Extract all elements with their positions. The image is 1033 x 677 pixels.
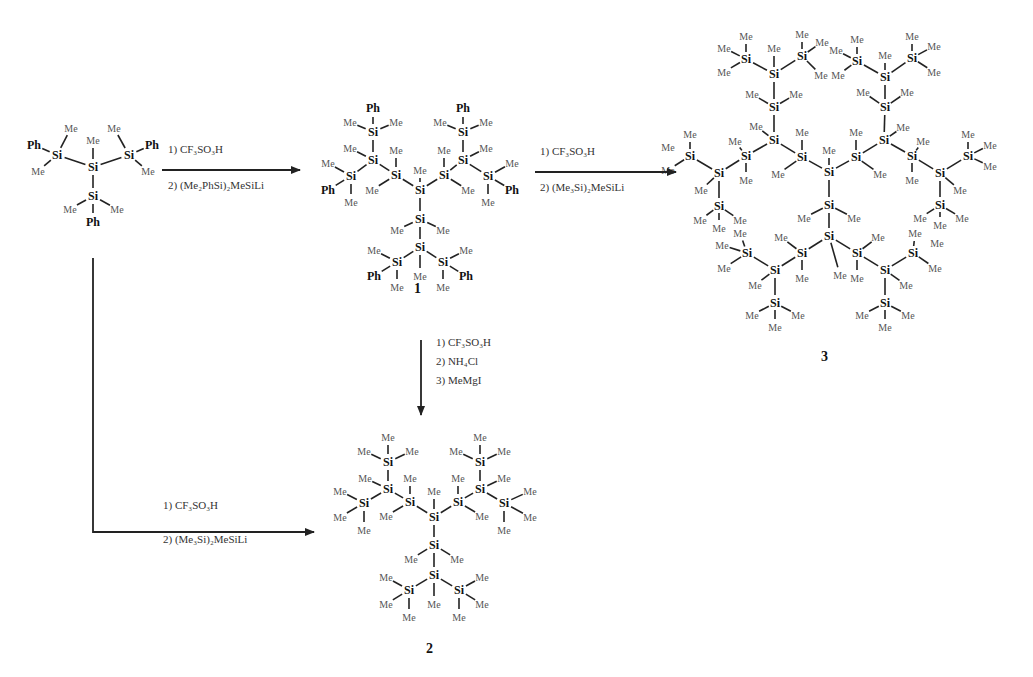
atom-si: Si (52, 148, 63, 162)
bond (135, 160, 142, 166)
atom-si: Si (741, 149, 752, 163)
bond (427, 251, 437, 257)
bond (707, 178, 714, 185)
bond (675, 160, 684, 166)
bond (465, 506, 475, 512)
atom-me: Me (905, 175, 919, 186)
atom-si: Si (88, 189, 99, 203)
bond (404, 222, 413, 226)
bond (836, 161, 849, 168)
bond (441, 549, 450, 555)
atom-si: Si (383, 482, 394, 496)
bond (404, 251, 414, 257)
atom-si: Si (935, 198, 946, 212)
bond (782, 257, 795, 265)
atom-me: Me (871, 232, 885, 243)
atom-me: Me (745, 310, 759, 321)
atom-me: Me (437, 145, 451, 156)
atom-me: Me (850, 34, 864, 45)
atom-me: Me (475, 599, 489, 610)
compound-3-structure: MeMeMeMeMeMeMeMeMeMeMeMeMeMeMeMeMeMeMeMe… (661, 29, 997, 333)
bond (118, 135, 125, 148)
atom-si: Si (824, 198, 835, 212)
atom-me: Me (831, 70, 845, 81)
atom-ph: Ph (366, 101, 380, 115)
atom-si: Si (797, 150, 808, 164)
atom-me: Me (344, 197, 358, 208)
atom-si: Si (880, 70, 891, 84)
bond (891, 97, 901, 104)
atom-me: Me (749, 121, 763, 132)
atom-si: Si (824, 229, 835, 243)
atom-me: Me (717, 67, 731, 78)
atom-me: Me (961, 129, 975, 140)
bond (403, 179, 413, 186)
atom-me: Me (693, 215, 707, 226)
atom-me: Me (427, 486, 441, 497)
atom-me: Me (748, 280, 762, 291)
atom-me: Me (459, 245, 473, 256)
atom-me: Me (717, 263, 731, 274)
bond (470, 125, 478, 129)
bond (470, 164, 482, 171)
atom-me: Me (379, 599, 393, 610)
atom-si: Si (475, 482, 486, 496)
atom-si: Si (404, 583, 415, 597)
bond (379, 179, 389, 186)
bond (495, 167, 505, 172)
atom-me: Me (381, 432, 395, 443)
reagent-step-3: 3) MeMgI (436, 374, 482, 386)
bond (781, 144, 795, 153)
atom-me: Me (795, 29, 809, 40)
atom-me: Me (403, 473, 417, 484)
atom-me: Me (933, 220, 947, 231)
atom-si: Si (88, 160, 99, 174)
atom-si: Si (741, 52, 752, 66)
atom-me: Me (849, 127, 863, 138)
bond (450, 266, 458, 271)
atom-si: Si (346, 169, 357, 183)
bond (831, 243, 838, 268)
atom-me: Me (389, 117, 403, 128)
atom-me: Me (505, 158, 519, 169)
atom-me: Me (795, 273, 809, 284)
atom-me: Me (475, 572, 489, 583)
atom-me: Me (367, 245, 381, 256)
atom-me: Me (31, 166, 45, 177)
bond (447, 125, 455, 129)
atom-si: Si (475, 455, 486, 469)
atom-si: Si (907, 51, 918, 65)
atom-si: Si (685, 149, 696, 163)
atom-me: Me (829, 45, 843, 56)
arrow-sm-to-2 (93, 258, 314, 532)
atom-me: Me (856, 87, 870, 98)
atom-me: Me (774, 232, 788, 243)
atom-me: Me (745, 89, 759, 100)
bond (761, 274, 769, 280)
atom-si: Si (454, 583, 465, 597)
atom-si: Si (368, 153, 379, 167)
bond (836, 240, 850, 249)
bond (451, 179, 461, 186)
bond (335, 167, 344, 172)
bond (870, 97, 880, 104)
atom-me: Me (908, 228, 922, 239)
atom-si: Si (852, 54, 863, 68)
bond (725, 210, 734, 216)
atom-si: Si (851, 150, 862, 164)
reagent-step-1: 1) CF₃SO₃H (168, 143, 223, 155)
atom-me: Me (878, 50, 892, 61)
atom-me: Me (733, 215, 747, 226)
atom-me: Me (497, 473, 511, 484)
atom-me: Me (815, 37, 829, 48)
atom-me: Me (451, 473, 465, 484)
atom-si: Si (438, 255, 449, 269)
atom-me: Me (427, 599, 441, 610)
compound-label-3: 3 (821, 349, 828, 365)
atom-si: Si (880, 296, 891, 310)
bond (762, 131, 768, 136)
bond (495, 180, 504, 185)
atom-me: Me (343, 143, 357, 154)
bond (357, 152, 366, 157)
atom-si: Si (439, 168, 450, 182)
